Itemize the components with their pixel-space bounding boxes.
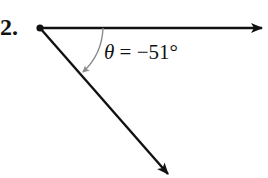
- angle-value: −51°: [137, 40, 178, 64]
- vertex-dot: [36, 24, 43, 31]
- equals-sign: =: [114, 40, 136, 64]
- theta-symbol: θ: [104, 40, 114, 64]
- angle-diagram: [0, 0, 268, 178]
- angle-label: θ = −51°: [104, 42, 178, 63]
- angle-arc: [83, 28, 103, 72]
